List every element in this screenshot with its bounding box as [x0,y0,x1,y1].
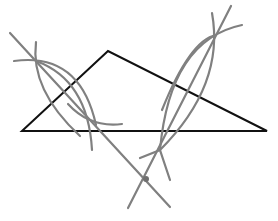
construction-diagram [0,0,278,221]
triangle [22,51,267,131]
circumcenter-point [143,176,149,182]
arc-ab-bottom [68,104,122,125]
arc-bc-left [160,25,242,180]
